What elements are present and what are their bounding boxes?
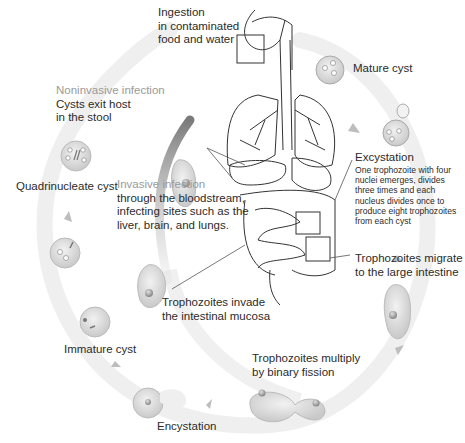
excystation-line-5: produce eight trophozoites xyxy=(355,206,456,216)
excystation-line-2: nuclei emerges, divides xyxy=(355,175,456,185)
invasive-line-1: through the bloodstream, xyxy=(117,192,249,206)
binucleate-cyst-cell xyxy=(50,238,80,268)
excystation-line-6: from each cyst xyxy=(355,216,456,226)
excystation-focus-box xyxy=(296,212,320,234)
multiply-line-1: Trophozoites multiply xyxy=(252,352,360,366)
noninvasive-line-2: in the stool xyxy=(56,111,165,125)
label-ingestion: Ingestion in contaminated food and water xyxy=(158,6,239,47)
invade-line-1: Trophozoites invade xyxy=(162,296,270,310)
mature-cyst-text: Mature cyst xyxy=(353,62,412,76)
immature-cyst-text: Immature cyst xyxy=(64,343,136,357)
excystation-line-1: One trophozoite with four xyxy=(355,165,456,175)
label-trophozoites-multiply: Trophozoites multiply by binary fission xyxy=(252,352,360,379)
label-encystation: Encystation xyxy=(157,420,216,434)
noninvasive-heading: Noninvasive infection xyxy=(56,84,165,98)
label-noninvasive-infection: Noninvasive infection Cysts exit host in… xyxy=(56,84,165,125)
encystation-text: Encystation xyxy=(157,420,216,434)
label-excystation: Excystation xyxy=(355,150,414,164)
mature-cyst-cell xyxy=(316,56,344,84)
label-trophozoites-migrate: Trophozoites migrate to the large intest… xyxy=(355,252,463,279)
excystation-line-3: three times and each xyxy=(355,185,456,195)
invasive-line-2: infecting sites such as the xyxy=(117,205,249,219)
label-immature-cyst: Immature cyst xyxy=(64,343,136,357)
invasive-line-3: liver, brain, and lungs. xyxy=(117,219,249,233)
ingestion-line-1: Ingestion xyxy=(158,6,239,20)
invade-line-2: the intestinal mucosa xyxy=(162,310,270,324)
migrating-trophozoite xyxy=(384,285,410,339)
ingestion-focus-box xyxy=(237,35,264,63)
multiply-line-2: by binary fission xyxy=(252,366,360,380)
excystation-line-4: nucleus divides once to xyxy=(355,196,456,206)
label-invasive-infection: Invasive infection through the bloodstre… xyxy=(117,178,249,232)
label-mature-cyst: Mature cyst xyxy=(353,62,412,76)
noninvasive-line-1: Cysts exit host xyxy=(56,98,165,112)
migrate-line-2: to the large intestine xyxy=(355,266,463,280)
invasive-heading: Invasive infection xyxy=(117,178,249,192)
label-excystation-detail: One trophozoite with four nuclei emerges… xyxy=(355,165,456,226)
quadrinucleate-cyst-cell xyxy=(61,141,91,171)
ingestion-line-2: in contaminated xyxy=(158,20,239,34)
excystation-heading: Excystation xyxy=(355,150,414,164)
label-trophozoites-invade: Trophozoites invade the intestinal mucos… xyxy=(162,296,270,323)
ingestion-line-3: food and water xyxy=(158,33,239,47)
label-quadrinucleate-cyst: Quadrinucleate cyst xyxy=(16,180,118,194)
immature-cyst-cell xyxy=(80,307,110,337)
quadrinucleate-cyst-text: Quadrinucleate cyst xyxy=(16,180,118,194)
migrate-line-1: Trophozoites migrate xyxy=(355,252,463,266)
large-intestine-focus-box xyxy=(306,237,330,261)
